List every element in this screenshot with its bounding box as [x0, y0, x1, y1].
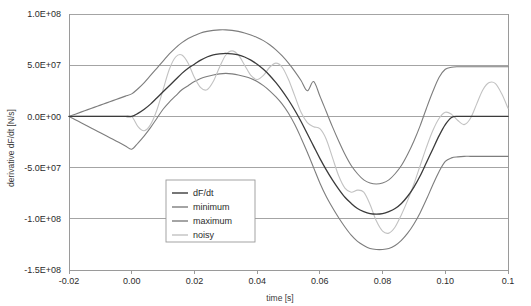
- x-tick-label: 0.08: [374, 276, 392, 286]
- y-tick-label: -1.5E+08: [24, 265, 61, 275]
- y-tick-label: 5.0E+07: [27, 60, 61, 70]
- x-axis-title-group: time [s]: [266, 293, 293, 303]
- y-tick-label: 1.0E+08: [27, 9, 61, 19]
- y-axis-title: derivative dF/dt [N/s]: [6, 109, 16, 187]
- legend: dF/dtminimummaximumnoisy: [166, 180, 255, 242]
- series-line-noisy: [69, 51, 508, 234]
- x-tick-label: 0.04: [248, 276, 266, 286]
- x-tick-label: -0.02: [59, 276, 80, 286]
- x-tick-labels: -0.020.000.020.040.060.080.100.1: [59, 270, 515, 286]
- y-tick-labels: 1.0E+085.0E+070.0E+00-5.0E+07-1.0E+08-1.…: [24, 9, 61, 275]
- legend-label-df-dt: dF/dt: [193, 188, 214, 198]
- x-tick-label: 0.1: [502, 276, 515, 286]
- x-axis-title: time [s]: [266, 293, 293, 303]
- series-line-df-dt: [69, 53, 508, 214]
- legend-label-minimum: minimum: [193, 202, 230, 212]
- data-series-group: [69, 30, 508, 250]
- x-tick-label: 0.00: [123, 276, 141, 286]
- series-line-maximum: [69, 30, 508, 184]
- y-tick-label: 0.0E+00: [27, 112, 61, 122]
- y-tick-label: -1.0E+08: [24, 214, 61, 224]
- chart-figure: 1.0E+085.0E+070.0E+00-5.0E+07-1.0E+08-1.…: [0, 0, 531, 306]
- y-axis-title-group: derivative dF/dt [N/s]: [6, 109, 16, 187]
- legend-label-maximum: maximum: [193, 216, 232, 226]
- plot-frame: [69, 14, 508, 270]
- x-tick-label: 0.06: [311, 276, 329, 286]
- gridlines: [69, 14, 508, 270]
- derivative-line-chart: 1.0E+085.0E+070.0E+00-5.0E+07-1.0E+08-1.…: [0, 0, 531, 306]
- x-tick-label: 0.02: [186, 276, 204, 286]
- legend-label-noisy: noisy: [193, 230, 215, 240]
- y-tick-label: -5.0E+07: [24, 163, 61, 173]
- x-tick-label: 0.10: [437, 276, 455, 286]
